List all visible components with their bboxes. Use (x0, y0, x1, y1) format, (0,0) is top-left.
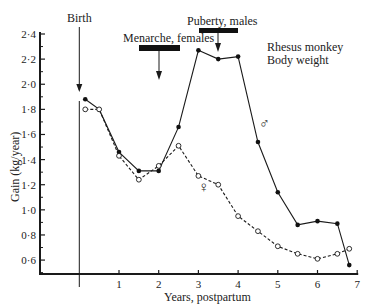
growth-chart: 0·60·81·01·21·41·61·82·02·22·41234567 Bi… (0, 0, 371, 306)
female-data-point (97, 107, 102, 112)
female-data-point (83, 107, 88, 112)
chart-title-line2: Body weight (267, 53, 329, 67)
y-tick-label: 2·4 (21, 28, 36, 40)
female-data-point (315, 256, 320, 261)
female-data-point (156, 163, 161, 168)
menarche-bar (139, 45, 180, 51)
menarche-label: Menarche, females (123, 31, 215, 45)
axes: 0·60·81·01·21·41·61·82·02·22·41234567 (21, 28, 360, 290)
y-tick-label: 0·8 (21, 229, 36, 241)
female-data-point (216, 182, 221, 187)
puberty-arrow-head-icon (215, 43, 221, 52)
y-axis-label: Gain (kg/year) (8, 132, 22, 202)
series-layer (83, 48, 352, 267)
female-data-point (136, 177, 141, 182)
males-line (85, 50, 349, 265)
female-data-point (256, 229, 261, 234)
y-tick-label: 1·8 (21, 103, 36, 115)
female-data-point (176, 143, 181, 148)
x-tick-label: 5 (275, 278, 281, 290)
y-tick-label: 1·0 (21, 204, 36, 216)
female-data-point (335, 251, 340, 256)
female-data-point (275, 244, 280, 249)
chart-title-line1: Rhesus monkey (267, 40, 343, 54)
male-data-point (83, 97, 88, 102)
female-data-point (236, 214, 241, 219)
female-data-point (295, 251, 300, 256)
male-symbol: ♂ (259, 116, 270, 131)
male-data-point (335, 221, 340, 226)
y-tick-label: 1·4 (21, 154, 36, 166)
x-tick-label: 4 (235, 278, 241, 290)
birth-arrow-head-icon (76, 84, 82, 92)
male-data-point (276, 190, 281, 195)
annotations (76, 27, 238, 287)
y-tick-label: 1·2 (21, 179, 36, 191)
birth-label: Birth (67, 11, 92, 25)
y-tick-label: 0·6 (21, 254, 36, 266)
x-tick-label: 3 (196, 278, 202, 290)
female-data-point (347, 246, 352, 251)
male-data-point (216, 57, 221, 62)
y-tick-label: 2·0 (21, 78, 36, 90)
male-data-point (137, 169, 142, 174)
puberty-label: Puberty, males (187, 14, 258, 28)
male-data-point (347, 263, 352, 268)
text-layer: Birth Menarche, females Puberty, males R… (8, 11, 343, 304)
x-tick-label: 2 (156, 278, 162, 290)
x-tick-label: 6 (315, 278, 321, 290)
male-data-point (236, 54, 241, 59)
male-data-point (176, 125, 181, 130)
menarche-arrow-head-icon (156, 71, 162, 80)
male-data-point (295, 223, 300, 228)
female-symbol: ♀ (198, 179, 209, 195)
y-tick-label: 1·6 (21, 128, 36, 140)
male-data-point (256, 140, 261, 145)
female-data-point (196, 174, 201, 179)
male-data-point (315, 219, 320, 224)
y-tick-label: 2·2 (21, 53, 36, 65)
x-tick-label: 7 (354, 278, 360, 290)
x-axis-label: Years, postpartum (164, 290, 251, 304)
female-data-point (117, 153, 122, 158)
x-tick-label: 1 (116, 278, 122, 290)
male-data-point (156, 169, 161, 174)
male-data-point (196, 48, 201, 53)
